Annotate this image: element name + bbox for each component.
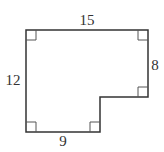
right-angle-icon-bottom-left [26,122,36,132]
right-angle-icon-top-right [138,30,148,40]
l-shape-outline [26,30,148,132]
right-angle-markers [26,30,148,132]
label-left: 12 [6,72,21,88]
l-shape-diagram: 15 12 8 9 [0,0,164,152]
label-top: 15 [80,12,95,28]
right-angle-icon-top-left [26,30,36,40]
right-angle-icon-bottom-inner [90,122,100,132]
right-angle-icon-right-bottom [138,87,148,97]
label-right: 8 [151,57,159,73]
label-bottom: 9 [59,133,67,149]
